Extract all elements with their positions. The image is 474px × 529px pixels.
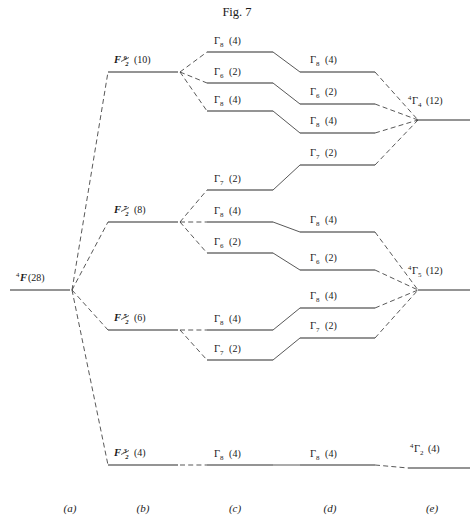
crystal-level-c-label-c6: Γ6(2)	[214, 236, 241, 250]
crystal-level-c-label-c1: Γ8(4)	[214, 35, 241, 49]
crystal-level-c-label-c1-degeneracy: (4)	[229, 35, 241, 47]
spin-orbit-label-F32-symbol: F	[113, 447, 121, 458]
spin-orbit-label-F52-j-denominator: 2	[124, 318, 129, 325]
final-level-label-G4-subscript: 4	[418, 101, 422, 109]
connector-d2-G4	[375, 104, 418, 120]
crystal-level-d-label-d9-subscript: 8	[316, 454, 320, 462]
connector-c6-d6	[273, 253, 300, 270]
final-level-label-G5: 4Γ5(12)	[408, 264, 443, 279]
final-level-label-G2-degeneracy: (4)	[428, 443, 440, 455]
connector-d5-G5	[375, 232, 418, 290]
crystal-level-d-label-d7: Γ8(4)	[310, 290, 337, 304]
spin-orbit-label-F72: F72(8)	[113, 204, 146, 218]
spin-orbit-label-F92-symbol: F	[113, 54, 121, 65]
crystal-level-d-label-d3-subscript: 8	[316, 121, 320, 129]
crystal-level-c-label-c7: Γ8(4)	[214, 313, 241, 327]
column-caption-e: (e)	[426, 502, 439, 515]
column-caption-a: (a)	[64, 502, 77, 515]
crystal-level-d-label-d2-degeneracy: (2)	[325, 86, 337, 98]
crystal-level-d-label-d6-subscript: 6	[316, 258, 320, 266]
spin-orbit-label-F92: F92(10)	[113, 54, 151, 68]
connector-d9-G2	[375, 465, 408, 468]
connector-c5-d5	[273, 222, 300, 232]
connector-F72-c6	[180, 222, 207, 253]
crystal-level-d-label-d5-subscript: 8	[316, 220, 320, 228]
spin-orbit-label-F72-degeneracy: (8)	[134, 204, 146, 216]
spin-orbit-label-F72-j-denominator: 2	[124, 210, 129, 217]
crystal-level-d-label-d6: Γ6(2)	[310, 252, 337, 266]
crystal-level-c-label-c9: Γ8(4)	[214, 448, 241, 462]
spin-orbit-label-F52-symbol: F	[113, 312, 121, 323]
energy-level-figure: Fig. 7 4F(28)F92(10)F72(8)F52(6)F32(4)Γ8…	[0, 0, 474, 529]
crystal-level-d-label-d3-degeneracy: (4)	[325, 115, 337, 127]
crystal-level-c-label-c3-subscript: 8	[220, 100, 224, 108]
level-line-layer	[10, 52, 470, 468]
crystal-level-c-label-c9-degeneracy: (4)	[229, 448, 241, 460]
crystal-level-c-label-c6-degeneracy: (2)	[229, 236, 241, 248]
connector-c2-d2	[273, 83, 300, 104]
crystal-level-d-label-d2-subscript: 6	[316, 92, 320, 100]
connector-freeion-F32	[72, 290, 108, 465]
column-caption-d: (d)	[324, 502, 337, 515]
column-caption-c: (c)	[229, 502, 242, 515]
crystal-level-d-label-d3: Γ8(4)	[310, 115, 337, 129]
spin-orbit-label-F32-degeneracy: (4)	[134, 447, 146, 459]
crystal-level-c-label-c5-subscript: 8	[220, 211, 224, 219]
crystal-level-c-label-c2: Γ6(2)	[214, 66, 241, 80]
caption-layer: (a)(b)(c)(d)(e)	[64, 502, 439, 515]
crystal-level-d-label-d5-degeneracy: (4)	[325, 214, 337, 226]
spin-orbit-label-F92-degeneracy: (10)	[134, 54, 151, 66]
crystal-level-d-label-d7-subscript: 8	[316, 296, 320, 304]
final-level-label-G4-degeneracy: (12)	[426, 95, 443, 107]
figure-canvas: Fig. 7 4F(28)F92(10)F72(8)F52(6)F32(4)Γ8…	[0, 0, 474, 529]
crystal-level-d-label-d2: Γ6(2)	[310, 86, 337, 100]
connector-c4-d4	[273, 165, 300, 190]
crystal-level-c-label-c5: Γ8(4)	[214, 205, 241, 219]
crystal-level-c-label-c5-degeneracy: (4)	[229, 205, 241, 217]
connector-d7-G5	[375, 290, 418, 308]
crystal-level-c-label-c3-degeneracy: (4)	[229, 94, 241, 106]
connector-F92-c2	[180, 72, 207, 83]
crystal-level-c-label-c1-subscript: 8	[220, 41, 224, 49]
crystal-level-c-label-c2-subscript: 6	[220, 72, 224, 80]
connector-freeion-F92	[72, 72, 108, 290]
title-layer: Fig. 7	[222, 5, 251, 19]
crystal-level-c-label-c7-degeneracy: (4)	[229, 313, 241, 325]
spin-orbit-label-F52-degeneracy: (6)	[134, 312, 146, 324]
connector-F72-c4	[180, 190, 207, 222]
connector-F92-c1	[180, 52, 207, 72]
crystal-level-d-label-d4: Γ7(2)	[310, 147, 337, 161]
figure-title: Fig. 7	[222, 5, 251, 19]
connector-freeion-F52	[72, 290, 108, 330]
crystal-level-d-label-d9: Γ8(4)	[310, 448, 337, 462]
crystal-level-c-label-c8-subscript: 7	[220, 349, 224, 357]
connector-layer	[72, 52, 418, 468]
crystal-level-c-label-c8-degeneracy: (2)	[229, 343, 241, 355]
crystal-level-c-label-c4-degeneracy: (2)	[229, 173, 241, 185]
column-caption-b: (b)	[137, 502, 150, 515]
crystal-level-d-label-d1: Γ8(4)	[310, 54, 337, 68]
crystal-level-d-label-d4-subscript: 7	[316, 153, 320, 161]
free-ion-label: 4F(28)	[16, 271, 45, 284]
connector-c8-d8	[273, 338, 300, 360]
spin-orbit-label-F72-symbol: F	[113, 204, 121, 215]
crystal-level-c-label-c6-subscript: 6	[220, 242, 224, 250]
crystal-level-c-label-c8: Γ7(2)	[214, 343, 241, 357]
final-level-label-G5-subscript: 5	[418, 271, 422, 279]
crystal-level-d-label-d9-degeneracy: (4)	[325, 448, 337, 460]
crystal-level-d-label-d1-degeneracy: (4)	[325, 54, 337, 66]
connector-c7-d7	[273, 308, 300, 330]
spin-orbit-label-F92-j-denominator: 2	[124, 60, 129, 67]
crystal-level-d-label-d6-degeneracy: (2)	[325, 252, 337, 264]
crystal-level-c-label-c7-subscript: 8	[220, 319, 224, 327]
final-level-label-G2-subscript: 2	[420, 449, 424, 457]
crystal-level-d-label-d1-subscript: 8	[316, 60, 320, 68]
crystal-level-c-label-c9-subscript: 8	[220, 454, 224, 462]
spin-orbit-label-F32-j-denominator: 2	[124, 453, 129, 460]
connector-F52-c8	[180, 330, 207, 360]
level-label-layer: 4F(28)F92(10)F72(8)F52(6)F32(4)Γ8(4)Γ6(2…	[16, 35, 443, 462]
crystal-level-c-label-c2-degeneracy: (2)	[229, 66, 241, 78]
connector-c1-d1	[273, 52, 300, 72]
connector-F92-c3	[180, 72, 207, 111]
crystal-level-d-label-d4-degeneracy: (2)	[325, 147, 337, 159]
